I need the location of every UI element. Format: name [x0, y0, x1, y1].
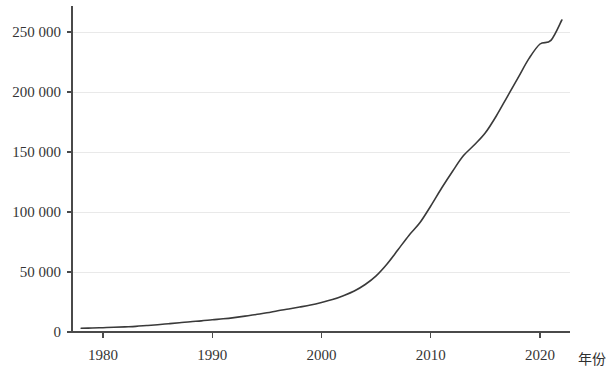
- y-axis-tick-label: 250 000: [12, 24, 61, 40]
- x-axis-ticks-group: 19801990200020102020: [88, 332, 555, 363]
- x-axis-tick-label: 2010: [416, 347, 446, 363]
- x-axis-tick-label: 1990: [197, 347, 227, 363]
- x-axis-tick-label: 2020: [525, 347, 555, 363]
- y-axis-tick-label: 100 000: [12, 204, 61, 220]
- x-axis-tick-label: 2000: [307, 347, 337, 363]
- y-axis-tick-label: 50 000: [20, 264, 61, 280]
- data-series-line: [81, 20, 562, 328]
- y-axis-tick-label: 0: [54, 324, 62, 340]
- chart-container: 050 000100 000150 000200 000250 000 1980…: [0, 0, 610, 376]
- y-axis-tick-label: 200 000: [12, 84, 61, 100]
- gridlines-group: [72, 32, 570, 272]
- line-chart: 050 000100 000150 000200 000250 000 1980…: [0, 0, 610, 376]
- y-axis-ticks-group: 050 000100 000150 000200 000250 000: [12, 24, 72, 340]
- y-axis-tick-label: 150 000: [12, 144, 61, 160]
- x-axis-tick-label: 1980: [88, 347, 118, 363]
- x-axis-title: 年份: [578, 352, 606, 367]
